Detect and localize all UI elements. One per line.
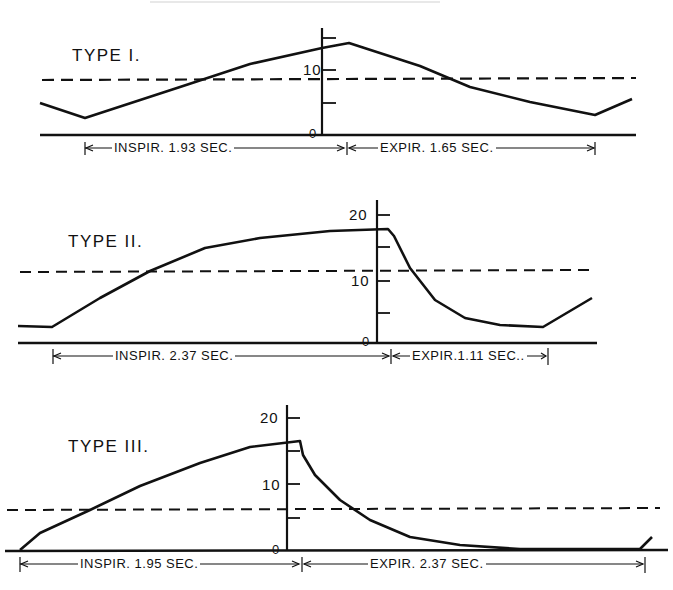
inspiration-duration-label: INSPIR. 2.37 SEC. (113, 348, 235, 363)
y-tick-label-0: 0 (309, 126, 317, 141)
inspiration-duration-label: INSPIR. 1.95 SEC. (78, 556, 200, 571)
threshold-dashed-line (7, 508, 660, 510)
plot-canvas (0, 0, 673, 590)
inspiration-duration-label: INSPIR. 1.93 SEC. (112, 140, 234, 155)
y-ticks (287, 418, 300, 518)
y-tick-label-0: 0 (272, 542, 280, 557)
y-tick-label-10: 10 (303, 61, 322, 78)
y-tick-label-10: 10 (351, 272, 370, 289)
y-tick-label-20: 20 (349, 206, 368, 223)
respiratory-waveform-figure: TYPE I. 10 0 INSPIR. 1.93 SEC. EXPIR. 1.… (0, 0, 673, 590)
y-tick-label-0: 0 (362, 334, 370, 349)
panel-type-2 (18, 200, 597, 365)
panel-title-type-2: TYPE II. (68, 232, 143, 252)
threshold-dashed-line (20, 270, 594, 272)
expiration-duration-label: EXPIR. 1.65 SEC. (378, 140, 496, 155)
expiration-duration-label: EXPIR.1.11 SEC.. (410, 348, 527, 363)
threshold-dashed-line (42, 78, 636, 80)
panel-type-3 (5, 405, 668, 573)
waveform-curve (20, 441, 652, 550)
y-tick-label-10: 10 (262, 476, 281, 493)
y-tick-label-20: 20 (260, 409, 279, 426)
panel-title-type-1: TYPE I. (72, 46, 141, 66)
expiration-duration-label: EXPIR. 2.37 SEC. (368, 556, 486, 571)
panel-title-type-3: TYPE III. (68, 437, 150, 457)
